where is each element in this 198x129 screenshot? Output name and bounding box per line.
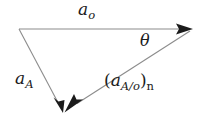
angle-label-theta: θ	[140, 33, 150, 49]
vector-label-open-paren: (	[104, 70, 111, 90]
vector-label-a-o-base: a	[78, 0, 88, 19]
vector-label-a-A-over-o-subscript: A/o	[121, 79, 140, 93]
vector-triangle-diagram: ao aA θ (aA/o)n	[0, 0, 198, 129]
vector-label-a-A-base: a	[15, 68, 25, 88]
vector-label-a-A-over-o-n: (aA/o)n	[104, 72, 154, 93]
vector-label-a-A: aA	[15, 70, 33, 91]
vector-diagram-canvas	[0, 0, 198, 129]
arrowhead-a-A-over-o-n	[65, 94, 84, 113]
arrowhead-a-A	[54, 98, 65, 114]
vector-label-a-o-subscript: o	[88, 8, 95, 22]
vector-label-a-A-over-o-base: a	[111, 70, 121, 90]
vector-label-a-A-subscript: A	[25, 77, 33, 91]
vector-line-a-A	[19, 29, 59, 104]
vector-label-a-o: ao	[78, 1, 95, 22]
vector-label-outer-subscript-n: n	[147, 79, 154, 93]
vector-label-close-paren: )	[140, 70, 147, 90]
